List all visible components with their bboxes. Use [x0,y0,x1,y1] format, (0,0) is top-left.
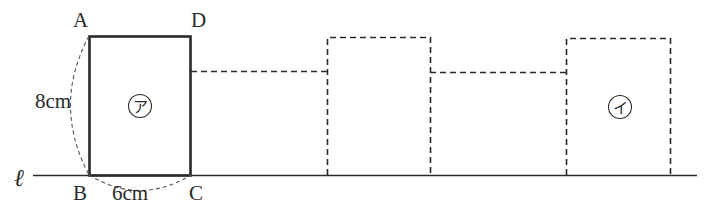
shape-a-label: ア [133,99,148,115]
line-l-label: ℓ [14,165,24,191]
vertex-b-label: B [73,181,87,205]
dashed-rectangle-2 [328,38,431,176]
shape-b-label: イ [613,100,628,116]
height-dimension-arc [71,36,90,175]
height-label: 8cm [35,89,71,113]
rolling-path [191,38,671,176]
vertex-a-label: A [73,8,89,32]
vertex-d-label: D [191,8,206,32]
vertex-c-label: C [189,181,203,205]
width-label: 6cm [112,181,148,205]
rolling-rectangle-diagram: ℓ A D B C 8cm 6cm ア イ [0,0,713,208]
